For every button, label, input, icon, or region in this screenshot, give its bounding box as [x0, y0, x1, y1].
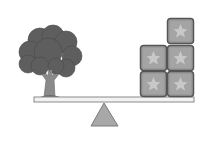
- star-block-icon: [168, 19, 194, 44]
- tree-icon: [19, 25, 82, 97]
- balance-scale-illustration: [0, 0, 219, 144]
- plank-icon: [34, 97, 194, 102]
- star-block-icon: [168, 72, 194, 97]
- balance-diagram: Balance scale: tree vs. star blocks: [0, 0, 219, 144]
- star-block-icon: [141, 46, 167, 71]
- star-block-icon: [141, 72, 167, 97]
- star-block-icon: [168, 46, 194, 71]
- star-blocks: [141, 19, 194, 97]
- fulcrum-icon: [91, 103, 118, 126]
